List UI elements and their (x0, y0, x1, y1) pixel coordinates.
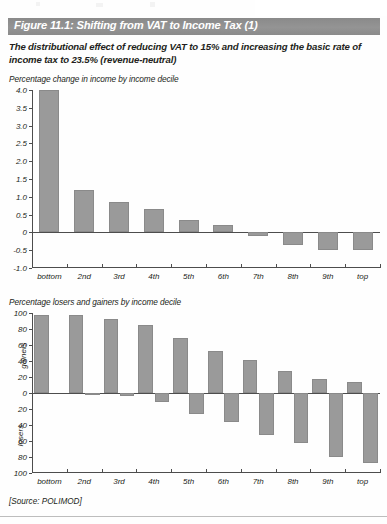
chart-2-caption: Percentage losers and gainers by income … (9, 297, 181, 307)
bar (208, 351, 223, 393)
y-tick-label: 1.5 (16, 175, 27, 184)
y-tick (29, 268, 32, 269)
source-note: [Source: POLIMOD] (9, 497, 82, 506)
bar (85, 393, 100, 395)
y-tick (29, 409, 32, 410)
y-tick (29, 473, 32, 474)
x-axis-label: 9th (322, 272, 333, 281)
bar (259, 393, 274, 435)
y-tick-label: 60 (18, 341, 27, 350)
bar (329, 393, 344, 457)
page-bottom-rule (0, 516, 387, 517)
x-axis-label: 9th (322, 477, 333, 486)
y-tick-label: -1.0 (13, 264, 27, 273)
bar (173, 338, 188, 393)
y-tick (29, 329, 32, 330)
x-axis-label: top (357, 272, 368, 281)
y-tick (29, 425, 32, 426)
y-tick-label: 3.5 (16, 103, 27, 112)
y-tick (29, 377, 32, 378)
bar (74, 190, 94, 233)
y-tick-label: 100 (14, 469, 27, 478)
bar (104, 319, 119, 393)
x-tick (241, 469, 242, 473)
x-axis-label: 7th (253, 272, 264, 281)
y-tick-label: 100 (14, 309, 27, 318)
x-axis-label: bottom (37, 272, 61, 281)
bar (155, 393, 170, 402)
y-tick (29, 345, 32, 346)
chart-1-y-axis (32, 90, 33, 268)
x-axis-label: 2nd (78, 477, 91, 486)
bar (144, 209, 164, 232)
bar (213, 225, 233, 232)
x-tick (241, 264, 242, 268)
chart-1-plot-area: 4.03.53.02.52.01.51.00.50-0.5-1.0 (32, 90, 380, 268)
figure-subtitle: The distributional effect of reducing VA… (9, 41, 377, 66)
bar (278, 371, 293, 393)
y-tick (29, 90, 32, 91)
y-tick (29, 126, 32, 127)
x-axis-label: 5th (183, 272, 194, 281)
y-tick-label: 60 (18, 437, 27, 446)
bar (179, 220, 199, 232)
bar (34, 315, 49, 393)
y-tick-label: 2.5 (16, 139, 27, 148)
x-tick (380, 264, 381, 268)
y-tick (29, 457, 32, 458)
bar (120, 393, 135, 396)
x-tick (206, 264, 207, 268)
bar (363, 393, 378, 463)
bar (318, 232, 338, 250)
x-axis-label: 4th (148, 272, 159, 281)
x-tick (310, 469, 311, 473)
bar (109, 202, 129, 232)
bar (312, 379, 327, 393)
x-tick (171, 469, 172, 473)
bar (138, 325, 153, 393)
x-tick (345, 264, 346, 268)
y-tick-label: 4.0 (16, 86, 27, 95)
bar (39, 90, 59, 232)
x-tick (310, 264, 311, 268)
bar (294, 393, 309, 443)
x-axis-label: 6th (218, 272, 229, 281)
bar (347, 382, 362, 393)
x-axis-label: 7th (253, 477, 264, 486)
y-tick-label: 40 (18, 421, 27, 430)
y-tick-label: 20 (18, 373, 27, 382)
x-tick (136, 264, 137, 268)
chart-2-plot-area: gainers losers 10080604020020406080100 (32, 313, 380, 473)
bar (69, 315, 84, 393)
x-tick (276, 264, 277, 268)
x-axis-label: top (357, 477, 368, 486)
x-axis-label: 8th (287, 477, 298, 486)
y-tick-label: 3.0 (16, 121, 27, 130)
y-tick-label: 2.0 (16, 157, 27, 166)
scan-artifact-strip (0, 0, 387, 16)
y-tick-label: 0 (23, 228, 27, 237)
x-axis-label: 2nd (78, 272, 91, 281)
y-tick-label: 20 (18, 405, 27, 414)
x-axis-label: 4th (148, 477, 159, 486)
y-tick (29, 108, 32, 109)
figure-title-band: Figure 11.1: Shifting from VAT to Income… (8, 18, 380, 35)
x-axis-label: 6th (218, 477, 229, 486)
bar (243, 360, 258, 393)
y-tick-label: 0 (23, 389, 27, 398)
chart-1-caption: Percentage change in income by income de… (9, 74, 178, 84)
y-tick-label: 1.0 (16, 192, 27, 201)
x-tick (345, 469, 346, 473)
x-tick (67, 264, 68, 268)
x-tick (206, 469, 207, 473)
y-tick (29, 441, 32, 442)
x-axis-label: 3rd (113, 477, 125, 486)
y-tick (29, 361, 32, 362)
y-tick-label: 0.5 (16, 210, 27, 219)
x-tick (67, 469, 68, 473)
y-tick (29, 313, 32, 314)
y-tick (29, 197, 32, 198)
x-axis-label: 5th (183, 477, 194, 486)
y-tick (29, 161, 32, 162)
y-tick (29, 143, 32, 144)
